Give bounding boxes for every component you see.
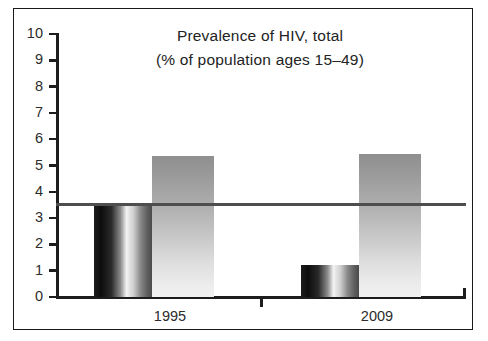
x-axis-mid-tick (260, 298, 263, 307)
x-axis-tick-label-1995: 1995 (130, 308, 210, 324)
y-axis-tick-label: 6 (13, 131, 43, 146)
reference-line (56, 203, 466, 206)
y-axis-tick-label: 1 (13, 263, 43, 278)
y-axis-tick-label: 3 (13, 210, 43, 225)
plot-area (56, 34, 465, 297)
x-axis-tick-label-2009: 2009 (337, 308, 417, 324)
bar-dark-1995 (94, 205, 152, 297)
y-axis-tick-label: 2 (13, 236, 43, 251)
y-axis-tick-label: 8 (13, 79, 43, 94)
bar-light-1995 (152, 156, 214, 297)
y-axis-tick-label: 9 (13, 52, 43, 67)
bar-light-2009 (359, 154, 421, 297)
y-axis-tick-label: 4 (13, 184, 43, 199)
y-axis-tick-label: 10 (13, 26, 43, 41)
chart-figure: Prevalence of HIV, total (% of populatio… (0, 0, 488, 341)
y-axis-tick-label: 7 (13, 105, 43, 120)
y-axis-tick-label: 5 (13, 158, 43, 173)
bar-dark-2009 (301, 265, 359, 297)
y-axis-tick-label: 0 (13, 289, 43, 304)
